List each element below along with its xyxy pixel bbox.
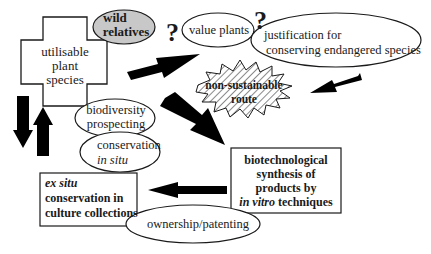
arrow-up: [33, 107, 53, 156]
justification-label: justification for conserving endangered …: [264, 28, 431, 58]
utilisable-species-label: utilisable plant species: [30, 45, 100, 87]
biotech-line4: in vitro techniques: [231, 195, 341, 209]
ownership-label: ownership/patenting: [138, 217, 258, 232]
wild-relatives-label: wild relatives: [96, 11, 156, 39]
biotech-label: biotechnological synthesis of products b…: [231, 153, 341, 209]
arrow-to-ex-situ: [148, 182, 227, 198]
ex-situ-label: ex situ conservation in culture collecti…: [45, 176, 145, 221]
arrow-from-justification: [310, 73, 362, 93]
value-plants-label: value plants: [184, 23, 254, 38]
biodiversity-label: biodiversity prospecting: [78, 103, 154, 131]
arrow-down: [13, 96, 33, 148]
arrow-to-value-plants: [127, 54, 200, 80]
question-mark-1: ?: [166, 20, 179, 46]
non-sustainable-label: non-sustainable route: [204, 78, 284, 106]
in-situ-label: conservation in situ: [97, 138, 177, 168]
